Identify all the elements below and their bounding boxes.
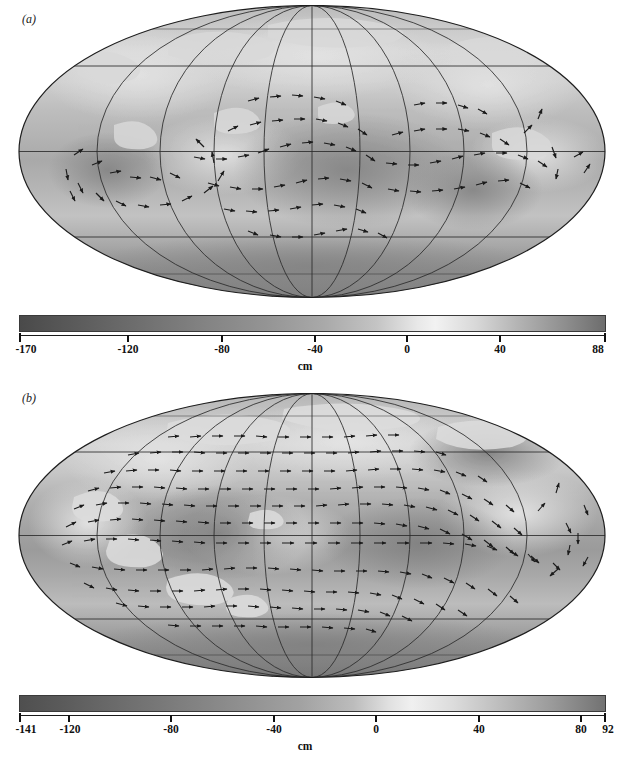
colorbar-a-bar [19, 315, 606, 332]
colorbar-b-unit-label: cm [298, 740, 313, 752]
colorbar-b-tick-label: 0 [373, 723, 379, 735]
colorbar-a-tick [499, 335, 501, 342]
colorbar-b-tick-label: -120 [59, 723, 80, 735]
map-b [18, 393, 606, 678]
colorbar-a-tick-label: 0 [404, 343, 410, 355]
colorbar-b-tick-label: 40 [473, 723, 485, 735]
colorbar-a-tick [19, 333, 21, 342]
colorbar-a-tick-label: -80 [214, 343, 229, 355]
colorbar-a-tick [221, 335, 223, 342]
colorbar-a-tick [604, 333, 606, 342]
colorbar-b-tick-label: -141 [15, 723, 36, 735]
colorbar-a-tick-label: 88 [592, 343, 604, 355]
colorbar-b-tick [68, 715, 70, 722]
map-b-svg [18, 393, 606, 678]
map-a [18, 5, 606, 298]
map-a-svg [18, 5, 606, 298]
colorbar-b-axis [19, 715, 606, 716]
map-b-canvas [18, 393, 606, 678]
colorbar-b-tick-label: 80 [575, 723, 587, 735]
colorbar-b-tick-label: -40 [266, 723, 281, 735]
colorbar-a-tick [406, 335, 408, 342]
colorbar-a-tick-label: -170 [15, 343, 36, 355]
colorbar-a-axis [19, 335, 606, 336]
colorbar-b-tick [273, 715, 275, 722]
colorbar-b-tick [580, 715, 582, 722]
colorbar-b-tick [478, 715, 480, 722]
colorbar-b-gradient [20, 696, 605, 711]
colorbar-a-tick-label: 40 [494, 343, 506, 355]
panel-b: (b) [0, 384, 622, 764]
colorbar-a-tick-label: -40 [307, 343, 322, 355]
panel-a: (a) [0, 0, 622, 380]
colorbar-b-tick-label: -80 [163, 723, 178, 735]
colorbar-b-tick-label: 92 [602, 723, 614, 735]
colorbar-b-bar [19, 695, 606, 712]
map-a-canvas [18, 5, 606, 298]
colorbar-a-tick [127, 335, 129, 342]
colorbar-a-unit-label: cm [298, 360, 313, 372]
colorbar-a-tick [314, 335, 316, 342]
colorbar-a-tick-label: -120 [117, 343, 138, 355]
colorbar-a-gradient [20, 316, 605, 331]
colorbar-b-tick [375, 715, 377, 722]
colorbar-b-tick [604, 713, 606, 722]
colorbar-b-tick [170, 715, 172, 722]
colorbar-b-tick [19, 713, 21, 722]
